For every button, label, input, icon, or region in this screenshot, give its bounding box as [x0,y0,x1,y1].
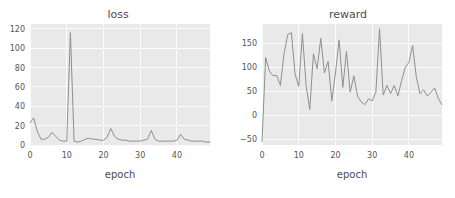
chart-panel-loss: loss 020406080100120 010203040 epoch [0,0,228,198]
y-tick-label: −50 [240,135,257,144]
loss-y-ticklabels: 020406080100120 [10,25,25,150]
y-tick-label: 0 [252,111,257,120]
loss-chart-title: loss [107,8,129,21]
y-tick-label: 100 [10,44,25,53]
x-tick-label: 30 [135,151,145,160]
y-tick-label: 20 [15,122,25,131]
x-tick-label: 40 [404,151,414,160]
loss-x-ticklabels: 010203040 [27,151,182,160]
reward-y-ticklabels: −50050100150 [240,39,257,144]
y-tick-label: 120 [10,25,25,34]
loss-plot-background [30,24,210,145]
y-tick-label: 40 [15,102,25,111]
loss-xaxis-label: epoch [105,169,135,180]
y-tick-label: 80 [15,64,25,73]
reward-chart-title: reward [329,8,367,21]
y-tick-label: 60 [15,83,25,92]
x-tick-label: 10 [62,151,72,160]
x-tick-label: 40 [172,151,182,160]
reward-xaxis-label: epoch [337,169,367,180]
reward-chart-svg: reward −50050100150 010203040 epoch [228,0,455,198]
chart-panel-reward: reward −50050100150 010203040 epoch [228,0,455,198]
figure-container: loss 020406080100120 010203040 epoch rew… [0,0,455,198]
y-tick-label: 150 [242,39,257,48]
x-tick-label: 0 [259,151,264,160]
loss-chart-svg: loss 020406080100120 010203040 epoch [0,0,228,198]
x-tick-label: 10 [294,151,304,160]
x-tick-label: 30 [367,151,377,160]
x-tick-label: 20 [330,151,340,160]
y-tick-label: 0 [20,141,25,150]
y-tick-label: 50 [247,87,257,96]
y-tick-label: 100 [242,63,257,72]
x-tick-label: 0 [27,151,32,160]
x-tick-label: 20 [98,151,108,160]
reward-x-ticklabels: 010203040 [259,151,414,160]
